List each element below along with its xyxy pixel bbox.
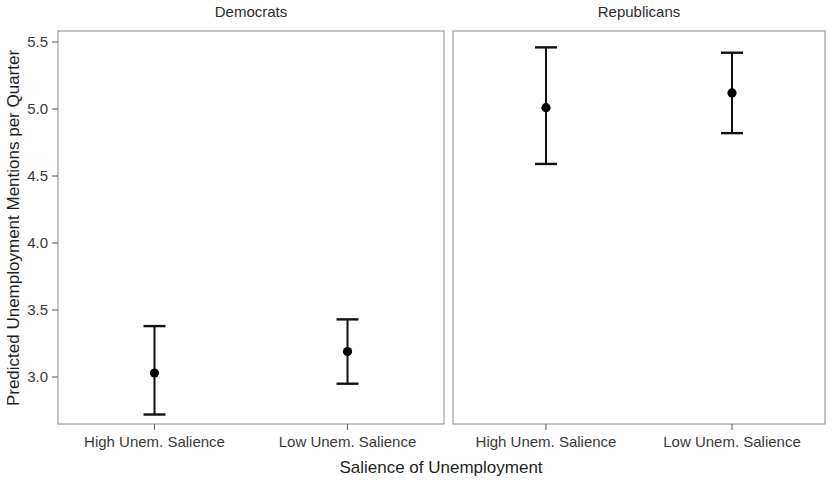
panel-democrats: DemocratsHigh Unem. SalienceLow Unem. Sa… bbox=[58, 3, 444, 450]
data-point bbox=[150, 368, 159, 377]
data-point bbox=[727, 88, 736, 97]
y-axis-title: Predicted Unemployment Mentions per Quar… bbox=[4, 50, 23, 407]
y-tick-label: 5.5 bbox=[27, 33, 48, 50]
y-tick-label: 3.0 bbox=[27, 368, 48, 385]
y-axis: 3.03.54.04.55.05.5 bbox=[27, 33, 58, 385]
error-bar bbox=[535, 47, 557, 164]
y-tick-label: 5.0 bbox=[27, 100, 48, 117]
panel-border bbox=[453, 31, 825, 424]
panel-republicans: RepublicansHigh Unem. SalienceLow Unem. … bbox=[453, 3, 825, 450]
x-axis-title: Salience of Unemployment bbox=[339, 458, 542, 477]
y-tick-label: 4.5 bbox=[27, 167, 48, 184]
x-tick-label: High Unem. Salience bbox=[84, 433, 225, 450]
chart-container: 3.03.54.04.55.05.5 Predicted Unemploymen… bbox=[0, 0, 839, 480]
x-tick-label: Low Unem. Salience bbox=[279, 433, 417, 450]
y-tick-label: 4.0 bbox=[27, 234, 48, 251]
error-bar bbox=[337, 319, 359, 383]
panel-border bbox=[58, 31, 444, 424]
x-tick-label: High Unem. Salience bbox=[476, 433, 617, 450]
panel-group: DemocratsHigh Unem. SalienceLow Unem. Sa… bbox=[58, 3, 825, 450]
y-tick-label: 3.5 bbox=[27, 301, 48, 318]
error-bar bbox=[144, 326, 166, 414]
x-tick-label: Low Unem. Salience bbox=[663, 433, 801, 450]
data-point bbox=[541, 103, 550, 112]
error-bar bbox=[721, 53, 743, 133]
panel-strip-label: Republicans bbox=[598, 3, 681, 20]
faceted-error-bar-chart: 3.03.54.04.55.05.5 Predicted Unemploymen… bbox=[0, 0, 839, 480]
data-point bbox=[343, 347, 352, 356]
panel-strip-label: Democrats bbox=[215, 3, 288, 20]
